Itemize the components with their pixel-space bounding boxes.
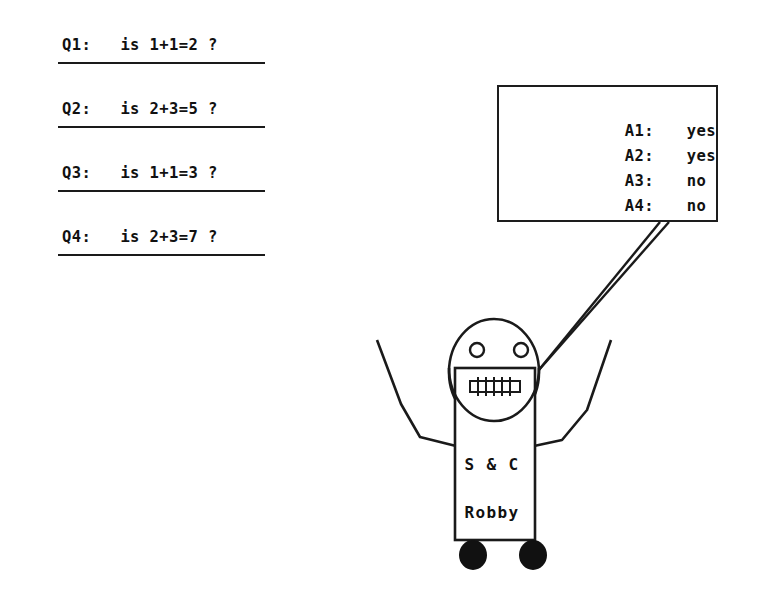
robot-brand-label: S & C (442, 455, 542, 474)
answer-label: A1: (625, 122, 687, 140)
answer-value: yes (687, 122, 716, 140)
answer-list: A1:yes A2:yes A3:no A4:no (547, 104, 716, 204)
answer-label: A4: (625, 197, 687, 215)
robot-wheel-left (459, 540, 487, 570)
answer-label: A3: (625, 172, 687, 190)
robot-eye-right (514, 343, 528, 357)
answer-value: no (687, 197, 706, 215)
sign-post (538, 222, 669, 371)
answer-value: no (687, 172, 706, 190)
robot-wheel-right (519, 540, 547, 570)
figure-canvas: Q1: is 1+1=2 ? Q2: is 2+3=5 ? Q3: is 1+1… (0, 0, 767, 596)
list-item: A1:yes (547, 104, 716, 129)
answer-value: yes (687, 147, 716, 165)
robot-name-label: Robby (442, 503, 542, 522)
answer-label: A2: (625, 147, 687, 165)
robot-right-arm (534, 340, 611, 446)
robot-left-arm (377, 340, 456, 446)
robot-eye-left (470, 343, 484, 357)
answer-sign-board: A1:yes A2:yes A3:no A4:no (497, 85, 718, 222)
